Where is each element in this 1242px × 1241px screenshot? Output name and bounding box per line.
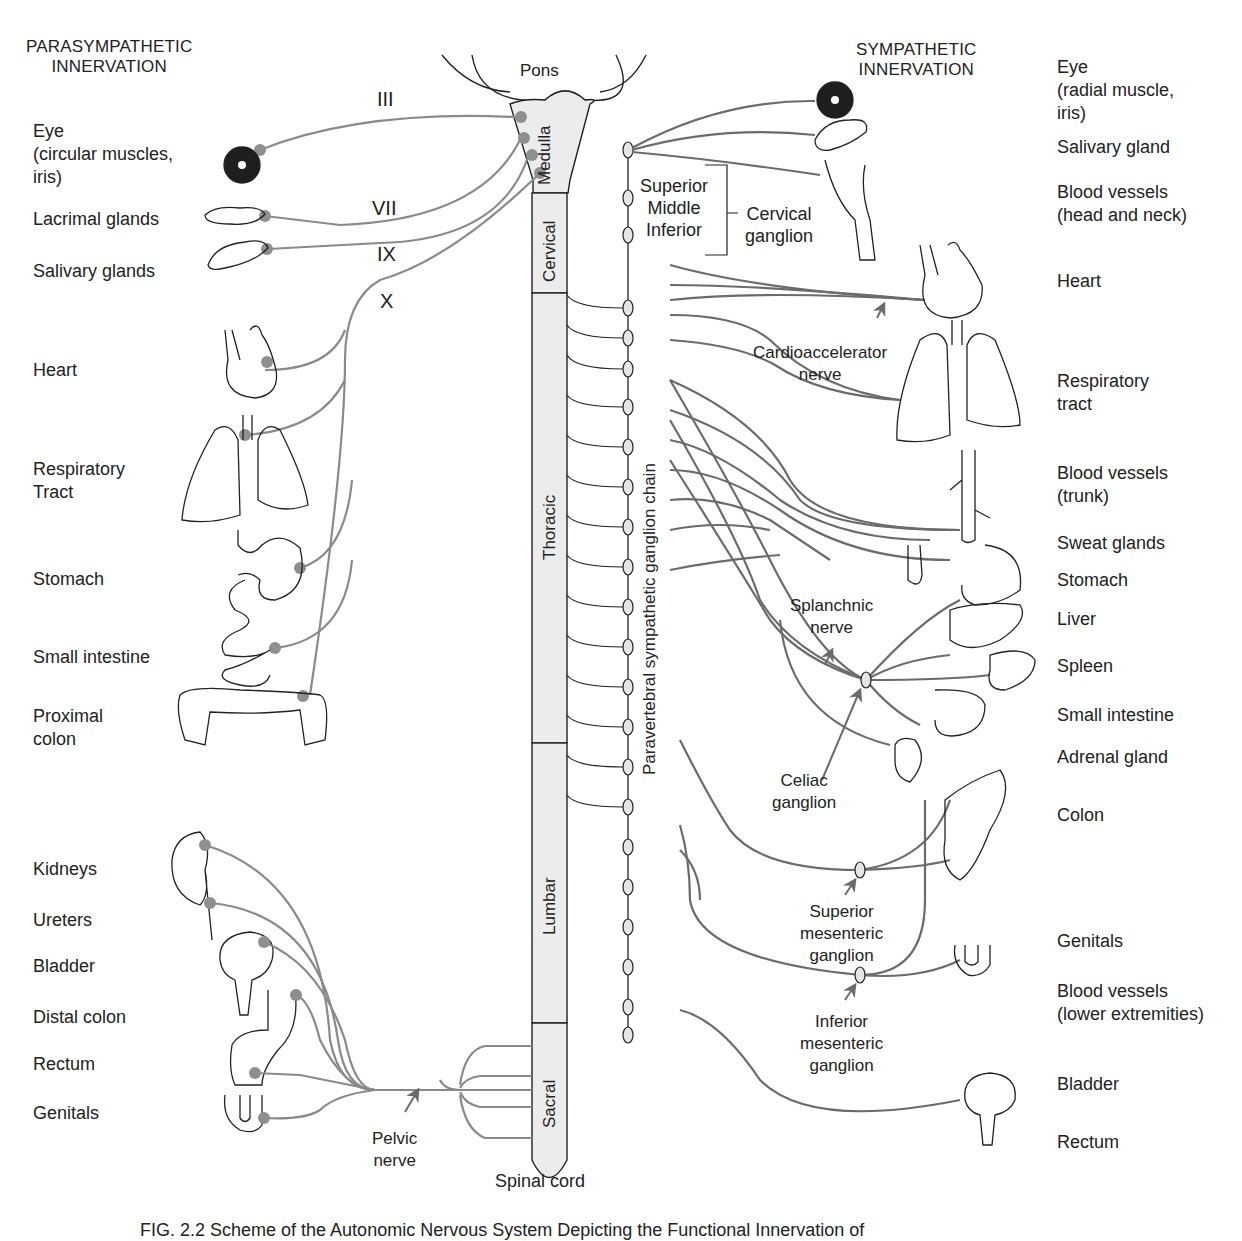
label-line: tract (1057, 393, 1149, 416)
figure-caption: FIG. 2.2 Scheme of the Autonomic Nervous… (140, 1220, 864, 1241)
symp-target-blood-vessels-lower: Blood vessels (lower extremities) (1057, 980, 1204, 1026)
para-target-small-intestine: Small intestine (33, 646, 150, 669)
superior-mesenteric-label: Superior mesenteric ganglion (800, 901, 883, 967)
cranial-nerve-ix: IX (377, 243, 396, 266)
label-line: Respiratory (33, 458, 125, 481)
pons-label: Pons (520, 60, 559, 82)
cranial-nerve-x: X (380, 290, 393, 313)
label-line: iris) (1057, 102, 1174, 125)
para-target-rectum: Rectum (33, 1053, 95, 1076)
label-line: Respiratory (1057, 370, 1149, 393)
symp-target-small-intestine: Small intestine (1057, 704, 1174, 727)
label-line: iris) (33, 166, 173, 189)
parasympathetic-header: PARASYMPATHETIC INNERVATION (26, 37, 192, 77)
label-line: ganglion (745, 225, 813, 247)
splanchnic-label: Splanchnic nerve (790, 595, 873, 639)
cranial-nerve-iii: III (377, 88, 394, 111)
label-line: (radial muscle, (1057, 79, 1174, 102)
symp-target-colon: Colon (1057, 804, 1104, 827)
label-line: Blood vessels (1057, 181, 1187, 204)
sympathetic-arrows (822, 304, 884, 1000)
para-target-proximal-colon: Proximal colon (33, 705, 103, 751)
cranial-nerve-vii: VII (372, 197, 396, 220)
pelvic-endings (199, 839, 302, 1124)
symp-target-eye: Eye (radial muscle, iris) (1057, 56, 1174, 125)
label-line: Pelvic (372, 1128, 417, 1150)
symp-target-blood-vessels-head: Blood vessels (head and neck) (1057, 181, 1187, 227)
para-target-kidneys: Kidneys (33, 858, 97, 881)
pelvic-arrow (405, 1090, 418, 1112)
para-target-respiratory: Respiratory Tract (33, 458, 125, 504)
label-line: Proximal (33, 705, 103, 728)
label-line: (circular muscles, (33, 143, 173, 166)
para-target-eye: Eye (circular muscles, iris) (33, 120, 173, 189)
para-target-genitals: Genitals (33, 1102, 99, 1125)
pelvic-nerve-paths (205, 845, 532, 1138)
label-line: Eye (1057, 56, 1174, 79)
label-line: colon (33, 728, 103, 751)
label-line: ganglion (800, 1055, 883, 1077)
label-line: nerve (790, 617, 873, 639)
label-line: Celiac (772, 770, 836, 792)
label-line: Inferior (640, 219, 708, 241)
cervical-label: Cervical (540, 221, 560, 282)
symp-target-genitals: Genitals (1057, 930, 1123, 953)
spinal-cord-label: Spinal cord (495, 1170, 585, 1192)
parasympathetic-organs (172, 147, 327, 1132)
symp-target-blood-vessels-trunk: Blood vessels (trunk) (1057, 462, 1168, 508)
rami-communicantes (567, 295, 623, 807)
medulla-label: Medulla (535, 125, 555, 185)
header-line: INNERVATION (26, 57, 192, 77)
symp-target-salivary: Salivary gland (1057, 136, 1170, 159)
label-line: Cervical (745, 203, 813, 225)
para-target-lacrimal: Lacrimal glands (33, 208, 159, 231)
para-target-distal-colon: Distal colon (33, 1006, 126, 1029)
label-line: Superior (640, 175, 708, 197)
label-line: Blood vessels (1057, 980, 1204, 1003)
spinal-cord (532, 193, 567, 1178)
cervical-ganglion-label: Cervical ganglion (745, 203, 813, 247)
sacral-label: Sacral (540, 1080, 560, 1128)
sympathetic-header: SYMPATHETIC INNERVATION (856, 40, 977, 80)
para-target-heart: Heart (33, 359, 77, 382)
para-target-salivary: Salivary glands (33, 260, 155, 283)
label-line: Superior (800, 901, 883, 923)
label-line: nerve (372, 1150, 417, 1172)
label-line: Splanchnic (790, 595, 873, 617)
symp-target-adrenal: Adrenal gland (1057, 746, 1168, 769)
label-line: Eye (33, 120, 173, 143)
symp-target-heart: Heart (1057, 270, 1101, 293)
pelvic-nerve-label: Pelvic nerve (372, 1128, 417, 1172)
ganglion-chain-label: Paravertebral sympathetic ganglion chain (640, 463, 660, 775)
lumbar-label: Lumbar (540, 877, 560, 935)
label-line: (lower extremities) (1057, 1003, 1204, 1026)
header-line: SYMPATHETIC (856, 40, 977, 60)
label-line: mesenteric (800, 1033, 883, 1055)
cervical-bracket (705, 165, 738, 255)
label-line: (head and neck) (1057, 204, 1187, 227)
label-line: nerve (753, 364, 887, 386)
symp-target-spleen: Spleen (1057, 655, 1113, 678)
inferior-mesenteric-label: Inferior mesenteric ganglion (800, 1011, 883, 1077)
para-target-ureters: Ureters (33, 909, 92, 932)
label-line: (trunk) (1057, 485, 1168, 508)
label-line: Blood vessels (1057, 462, 1168, 485)
header-line: PARASYMPATHETIC (26, 37, 192, 57)
symp-target-liver: Liver (1057, 608, 1096, 631)
para-target-bladder: Bladder (33, 955, 95, 978)
label-line: mesenteric (800, 923, 883, 945)
header-line: INNERVATION (856, 60, 977, 80)
label-line: Inferior (800, 1011, 883, 1033)
cardioaccelerator-label: Cardioaccelerator nerve (753, 342, 887, 386)
thoracic-label: Thoracic (540, 495, 560, 560)
symp-target-bladder: Bladder (1057, 1073, 1119, 1096)
label-line: Tract (33, 481, 125, 504)
cervical-levels-label: Superior Middle Inferior (640, 175, 708, 241)
label-line: ganglion (772, 792, 836, 814)
celiac-ganglion-label: Celiac ganglion (772, 770, 836, 814)
symp-target-sweat-glands: Sweat glands (1057, 532, 1165, 555)
symp-target-stomach: Stomach (1057, 569, 1128, 592)
symp-target-respiratory: Respiratory tract (1057, 370, 1149, 416)
symp-target-rectum: Rectum (1057, 1131, 1119, 1154)
label-line: Middle (640, 197, 708, 219)
